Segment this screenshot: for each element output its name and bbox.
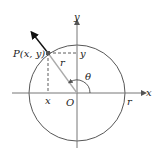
unit-circle-diagram: P(x, y) y x O r r θ x y xyxy=(0,0,159,161)
point-p xyxy=(46,51,50,55)
point-label: P(x, y) xyxy=(12,48,45,59)
y-axis-label: y xyxy=(73,11,80,22)
x-axis-label: x xyxy=(146,87,152,98)
x-projection-label: x xyxy=(45,95,51,106)
angle-label: θ xyxy=(85,71,91,82)
origin-label: O xyxy=(66,97,74,108)
radius-axis-label: r xyxy=(127,96,133,107)
radius-label: r xyxy=(60,57,66,68)
y-projection-label: y xyxy=(79,48,86,59)
